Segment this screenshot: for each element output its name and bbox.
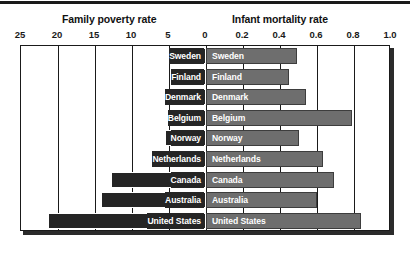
bar-row: FinlandFinland (21, 67, 389, 88)
plot-area: SwedenSwedenFinlandFinlandDenmarkDenmark… (20, 45, 390, 231)
bar-row: AustraliaAustralia (21, 190, 389, 211)
mortality-bar-label: United States (208, 213, 266, 229)
poverty-bar-label: Belgium (168, 110, 204, 126)
poverty-bar-label: Netherlands (152, 151, 204, 167)
mortality-bar-label: Belgium (208, 110, 245, 126)
mortality-bar-label: Sweden (208, 48, 244, 64)
tick-label-mortality-0-8: 0.8 (346, 29, 359, 40)
panel-title-family-poverty-rate: Family poverty rate (62, 13, 156, 25)
poverty-bar-label: Australia (165, 192, 204, 208)
mortality-bar-label: Netherlands (208, 151, 261, 167)
poverty-bar-label: Canada (171, 172, 204, 188)
bar-row: SwedenSweden (21, 46, 389, 67)
chart-figure: Family poverty rate Infant mortality rat… (0, 0, 410, 257)
mortality-bar-label: Norway (208, 130, 242, 146)
tick-label-poverty-0: 0 (202, 29, 207, 40)
bar-row: CanadaCanada (21, 170, 389, 191)
mortality-bar-label: Finland (208, 69, 242, 85)
bar-row: NorwayNorway (21, 128, 389, 149)
poverty-bar-label: Sweden (169, 48, 204, 64)
tick-label-poverty-25: 25 (15, 29, 26, 40)
tick-label-mortality-1: 1.0 (383, 29, 396, 40)
mortality-bar-label: Denmark (208, 89, 248, 105)
tick-label-poverty-10: 10 (126, 29, 137, 40)
plot-shadow-bottom (23, 231, 394, 235)
tick-label-poverty-5: 5 (165, 29, 170, 40)
tick-label-poverty-20: 20 (52, 29, 63, 40)
bar-row: DenmarkDenmark (21, 87, 389, 108)
panel-title-infant-mortality-rate: Infant mortality rate (232, 13, 328, 25)
mortality-bar-label: Canada (208, 172, 242, 188)
bar-row: BelgiumBelgium (21, 108, 389, 129)
poverty-bar-label: United States (147, 213, 204, 229)
poverty-bar-label: Denmark (165, 89, 204, 105)
tick-label-poverty-15: 15 (89, 29, 100, 40)
mortality-bar-label: Australia (208, 192, 248, 208)
tick-label-mortality-0-4: 0.4 (272, 29, 285, 40)
bar-row: NetherlandsNetherlands (21, 149, 389, 170)
bar-row: United StatesUnited States (21, 211, 389, 232)
plot-shadow-right (390, 48, 394, 235)
figure-top-rule (0, 1, 410, 4)
tick-label-mortality-0-6: 0.6 (309, 29, 322, 40)
tick-label-mortality-0-2: 0.2 (235, 29, 248, 40)
poverty-bar-label: Finland (171, 69, 204, 85)
poverty-bar-label: Norway (171, 130, 204, 146)
